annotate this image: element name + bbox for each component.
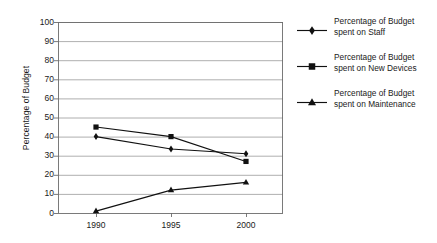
y-axis-ticks [54,23,58,214]
line-chart-figure: Percentage of Budget 1009080706050403020… [0,0,437,243]
marker-square [168,134,173,139]
marker-triangle [308,98,316,105]
marker-square [93,124,98,129]
legend-marker-triangle-icon [296,94,328,112]
series-square [93,124,248,164]
legend-label-line-2: spent on Maintenance [334,99,437,110]
chart-legend: Percentage of Budgetspent on StaffPercen… [296,16,437,124]
legend-label-line-2: spent on New Devices [334,63,437,74]
legend-entry[interactable]: Percentage of Budgetspent on New Devices [296,52,437,88]
series-triangle [93,179,249,213]
legend-entry[interactable]: Percentage of Budgetspent on Maintenance [296,88,437,124]
data-series-layer [93,124,249,213]
legend-label-line-1: Percentage of Budget [334,52,437,63]
legend-label: Percentage of Budgetspent on Staff [334,16,437,37]
marker-diamond [169,146,174,153]
legend-marker-square-icon [296,58,328,76]
gridlines [58,23,283,195]
marker-square [243,159,248,164]
marker-diamond [309,26,315,35]
legend-label-line-2: spent on Staff [334,27,437,38]
marker-triangle [243,179,249,185]
legend-label: Percentage of Budgetspent on New Devices [334,52,437,73]
legend-label-line-1: Percentage of Budget [334,88,437,99]
legend-marker-diamond-icon [296,22,328,40]
legend-label-line-1: Percentage of Budget [334,16,437,27]
marker-square [309,63,316,70]
marker-diamond [94,133,99,140]
legend-label: Percentage of Budgetspent on Maintenance [334,88,437,109]
legend-entry[interactable]: Percentage of Budgetspent on Staff [296,16,437,52]
